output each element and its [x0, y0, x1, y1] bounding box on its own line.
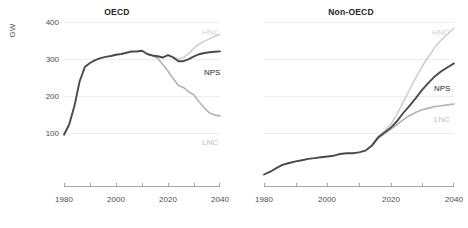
panel-oecd-title: OECD: [0, 7, 234, 17]
xtick-label-1980: 1980: [55, 195, 73, 204]
xtick-label-2040: 2040: [445, 195, 463, 204]
xtick-2030: [422, 183, 423, 186]
series-line-nps: [64, 51, 220, 135]
xtick-label-2040: 2040: [211, 195, 229, 204]
plot-area-oecd: 400 300 200 100 HNC NPS LNC: [64, 22, 220, 186]
xtick-1980: [264, 183, 265, 186]
series-line-lnc: [372, 104, 454, 146]
series-label-lnc: LNC: [434, 115, 450, 124]
x-axis-line: [64, 186, 220, 187]
xtick-label-2020: 2020: [159, 195, 177, 204]
series-line-lnc: [152, 56, 220, 116]
dual-panel-line-chart: OECD GW 400 300 200 100 HNC NPS LNC: [0, 0, 468, 228]
series-label-hnc: HNC: [432, 28, 449, 37]
xtick-2040: [453, 183, 454, 186]
panel-oecd: OECD GW 400 300 200 100 HNC NPS LNC: [0, 0, 234, 228]
series-lines-oecd: [64, 22, 220, 186]
xtick-label-1980: 1980: [255, 195, 273, 204]
y-axis-title: GW: [8, 24, 17, 38]
panel-nonoecd: Non-OECD HNC NPS LNC: [234, 0, 468, 228]
xtick-2010: [142, 183, 143, 186]
ytick-label-200: 200: [46, 92, 59, 101]
ytick-label-300: 300: [46, 55, 59, 64]
xtick-1980: [64, 183, 65, 186]
ytick-label-400: 400: [46, 18, 59, 27]
series-label-nps: NPS: [204, 68, 220, 77]
xtick-2030: [194, 183, 195, 186]
series-lines-nonoecd: [264, 22, 454, 186]
xtick-1990: [90, 183, 91, 186]
series-line-nps: [264, 63, 454, 174]
xtick-1990: [296, 183, 297, 186]
xtick-label-2000: 2000: [107, 195, 125, 204]
xtick-label-2020: 2020: [382, 195, 400, 204]
series-label-nps: NPS: [434, 84, 450, 93]
xtick-2010: [359, 183, 360, 186]
xtick-2040: [219, 183, 220, 186]
xtick-2000: [116, 183, 117, 186]
series-label-lnc: LNC: [202, 138, 218, 147]
series-label-hnc: HNC: [202, 28, 219, 37]
xtick-2020: [168, 183, 169, 186]
panel-nonoecd-title: Non-OECD: [234, 7, 468, 17]
x-axis-line: [264, 186, 454, 187]
xtick-2020: [391, 183, 392, 186]
ytick-label-100: 100: [46, 129, 59, 138]
plot-area-nonoecd: HNC NPS LNC 1980 2000 2020 2040: [264, 22, 454, 186]
xtick-2000: [327, 183, 328, 186]
xtick-label-2000: 2000: [318, 195, 336, 204]
